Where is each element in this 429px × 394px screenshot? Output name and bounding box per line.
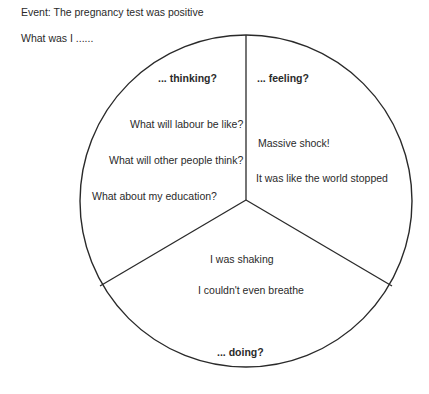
thinking-item: What will labour be like? [130,118,243,130]
feeling-item: It was like the world stopped [256,172,388,184]
section-title-feeling: ... feeling? [257,72,309,84]
thinking-item: What will other people think? [109,154,243,166]
divider-right [246,200,392,286]
thinking-item: What about my education? [92,190,217,202]
doing-item: I was shaking [210,253,274,265]
feeling-item: Massive shock! [258,137,330,149]
doing-item: I couldn't even breathe [198,284,304,296]
section-title-doing: ... doing? [217,346,264,358]
divider-left [100,200,246,286]
section-title-thinking: ... thinking? [158,72,217,84]
